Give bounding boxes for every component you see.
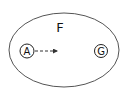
node-a-label: A: [24, 46, 31, 57]
diagram-canvas: F A G: [0, 0, 128, 94]
node-a: A: [20, 44, 34, 58]
node-g-label: G: [97, 46, 105, 57]
node-g: G: [95, 45, 108, 58]
region-f-label: F: [56, 20, 63, 35]
